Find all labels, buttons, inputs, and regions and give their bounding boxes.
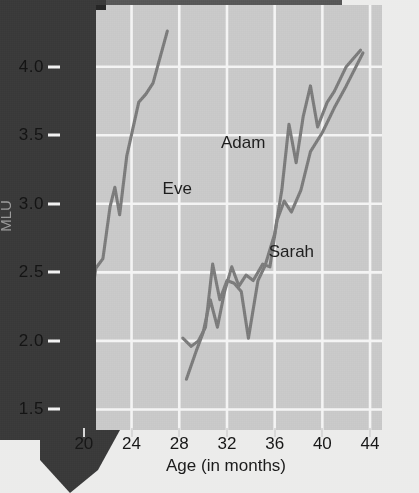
- y-tick-label: 3.0: [19, 194, 44, 214]
- y-tick-label: 1.5: [19, 399, 44, 419]
- series-label-adam: Adam: [221, 133, 265, 153]
- x-tick-mark: [369, 428, 371, 437]
- y-tick-label: 4.0: [19, 57, 44, 77]
- x-tick-label: 32: [217, 434, 236, 454]
- x-tick-mark: [321, 428, 323, 437]
- chart-page: 1.52.02.53.03.54.0 MLU 20242832364044 Ag…: [0, 0, 419, 493]
- y-tick-mark: [48, 339, 60, 342]
- y-tick-mark: [48, 202, 60, 205]
- y-tick-label: 3.5: [19, 125, 44, 145]
- x-tick-label: 40: [313, 434, 332, 454]
- x-tick-label: 36: [265, 434, 284, 454]
- y-tick-mark: [48, 134, 60, 137]
- plot-area: [60, 5, 382, 430]
- x-tick-mark: [131, 428, 133, 437]
- y-axis-title: MLU: [0, 200, 14, 232]
- series-label-eve: Eve: [163, 179, 192, 199]
- series-label-sarah: Sarah: [269, 242, 314, 262]
- y-tick-mark: [48, 65, 60, 68]
- y-tick-label: 2.5: [19, 262, 44, 282]
- x-tick-mark: [178, 428, 180, 437]
- x-tick-label: 28: [170, 434, 189, 454]
- x-tick-label: 44: [361, 434, 380, 454]
- x-tick-mark: [226, 428, 228, 437]
- x-tick-label: 24: [122, 434, 141, 454]
- y-tick-label: 2.0: [19, 331, 44, 351]
- photo-shadow-top-strip: [96, 0, 342, 5]
- y-tick-mark: [48, 408, 60, 411]
- chart-canvas: [60, 5, 382, 430]
- x-axis-title: Age (in months): [166, 456, 286, 476]
- x-tick-label: 20: [74, 434, 93, 454]
- y-tick-mark: [48, 271, 60, 274]
- x-tick-mark: [274, 428, 276, 437]
- x-tick-mark: [83, 428, 85, 437]
